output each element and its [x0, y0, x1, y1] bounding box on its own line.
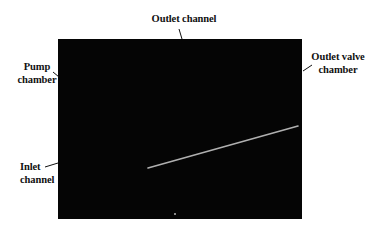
- label-outlet-valve-line2: chamber: [310, 63, 366, 76]
- label-inlet-line2: channel: [20, 173, 60, 186]
- label-outlet-valve-line1: Outlet valve: [310, 50, 366, 63]
- label-pump-chamber: Pump chamber: [17, 60, 57, 86]
- leader-outlet-channel: [179, 29, 182, 39]
- label-inlet-channel: Inlet channel: [20, 160, 60, 186]
- label-pump-chamber-line2: chamber: [17, 73, 57, 86]
- label-outlet-channel: Outlet channel: [146, 12, 222, 25]
- label-pump-chamber-line1: Pump: [17, 60, 57, 73]
- figure-photo: [58, 39, 302, 219]
- label-inlet-line1: Inlet: [20, 160, 60, 173]
- label-outlet-valve-chamber: Outlet valve chamber: [310, 50, 366, 76]
